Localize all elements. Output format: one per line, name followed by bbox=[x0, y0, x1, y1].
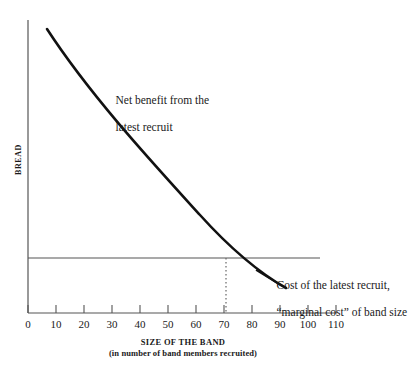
net-benefit-annotation-line2: latest recruit bbox=[116, 121, 173, 133]
marginal-cost-annotation-line1: Cost of the latest recruit, bbox=[277, 279, 390, 291]
net-benefit-annotation: Net benefit from the latest recruit bbox=[104, 80, 209, 148]
x-axis-title-sub: (in number of band members recruited) bbox=[28, 348, 338, 358]
marginal-cost-annotation: Cost of the latest recruit, “marginal co… bbox=[265, 265, 407, 333]
marginal-cost-annotation-line2: “marginal cost” of band size bbox=[277, 306, 408, 318]
chart-figure: BREAD 0 10 20 30 40 50 60 70 80 90 100 1… bbox=[0, 0, 420, 369]
y-axis-label: BREAD bbox=[14, 130, 23, 190]
x-axis-title-main: SIZE OF THE BAND bbox=[28, 337, 338, 347]
net-benefit-annotation-line1: Net benefit from the bbox=[116, 94, 210, 106]
net-benefit-curve bbox=[47, 29, 286, 288]
x-axis-title: SIZE OF THE BAND (in number of band memb… bbox=[28, 337, 338, 358]
